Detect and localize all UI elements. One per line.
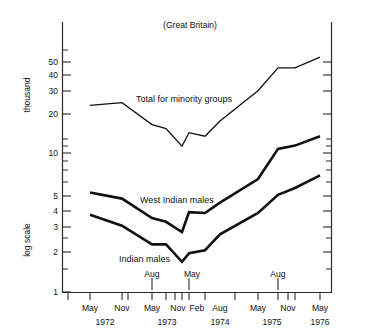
series-line-indian-males — [90, 175, 320, 261]
y-tick-label-4: 4 — [53, 206, 58, 216]
y-axis-major-ticks — [63, 62, 72, 292]
y-axis-title-thousand: thousand — [22, 77, 32, 112]
x-tick-label-may-1976: May — [312, 303, 329, 313]
y-tick-label-30: 30 — [49, 86, 59, 96]
x-year-label-1976: 1976 — [310, 317, 329, 327]
y-tick-label-2: 2 — [53, 247, 58, 257]
x-tick-label-nov-1973: Nov — [170, 303, 186, 313]
y-tick-label-20: 20 — [49, 109, 59, 119]
x-callout-aug-1973: Aug — [144, 269, 160, 279]
x-year-label-1975: 1975 — [262, 317, 281, 327]
line-chart: 50 40 30 20 10 5 4 3 2 1 thousand log sc… — [0, 0, 366, 334]
series-label-total: Total for minority groups — [136, 94, 233, 104]
x-year-label-1973: 1973 — [157, 317, 176, 327]
x-year-label-1972: 1972 — [95, 317, 114, 327]
x-axis-callout-ticks — [152, 278, 278, 290]
y-tick-label-10: 10 — [49, 148, 59, 158]
x-tick-label-nov-1975: Nov — [280, 303, 296, 313]
x-tick-label-may-1973: May — [144, 303, 161, 313]
y-tick-label-5: 5 — [53, 191, 58, 201]
series-label-indian: Indian males — [119, 254, 171, 264]
x-tick-label-aug-1974: Aug — [212, 303, 228, 313]
y-tick-label-50: 50 — [49, 57, 59, 67]
chart-title: (Great Britain) — [163, 20, 217, 30]
x-tick-label-may-1975: May — [250, 303, 267, 313]
right-axis-ticks — [323, 62, 332, 269]
x-callout-may-1974: May — [184, 269, 201, 279]
series-line-west-indian-males — [90, 136, 320, 232]
x-year-label-1974: 1974 — [210, 317, 229, 327]
y-axis-title-log-scale: log scale — [22, 223, 32, 257]
y-axis-minor-ticks — [63, 50, 69, 269]
x-callout-aug-1975: Aug — [270, 269, 286, 279]
chart-container: 50 40 30 20 10 5 4 3 2 1 thousand log sc… — [0, 0, 366, 334]
x-axis-ticks — [68, 293, 320, 301]
y-tick-label-3: 3 — [53, 222, 58, 232]
series-label-west-indian: West Indian males — [140, 195, 214, 205]
y-tick-label-40: 40 — [49, 70, 59, 80]
x-tick-label-nov-1972: Nov — [114, 303, 130, 313]
x-tick-label-may-1972: May — [82, 303, 99, 313]
y-tick-label-1: 1 — [53, 287, 58, 297]
x-tick-label-feb-1974: Feb — [190, 303, 205, 313]
